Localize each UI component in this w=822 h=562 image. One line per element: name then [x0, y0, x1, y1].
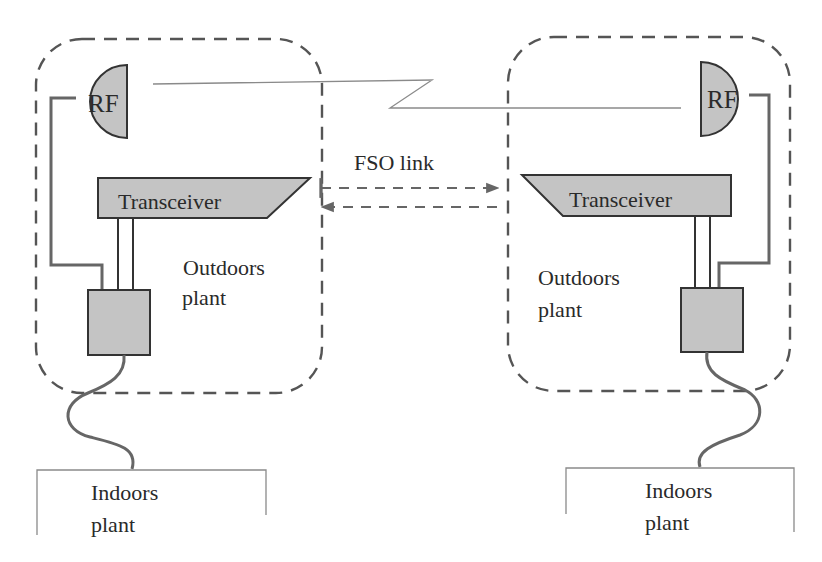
- right-transceiver: Transceiver: [522, 175, 731, 216]
- right-site: RF Transceiver Outdoors plant Indoors pl…: [508, 37, 794, 535]
- left-indoors-label-line1: Indoors: [91, 480, 158, 505]
- left-indoors-label-line2: plant: [91, 512, 135, 537]
- right-indoor-cable: [699, 352, 760, 467]
- left-rf-label: RF: [88, 90, 119, 117]
- left-outdoors-label-line2: plant: [182, 285, 226, 310]
- right-indoors-label-line1: Indoors: [645, 478, 712, 503]
- left-indoor-cable: [68, 355, 133, 469]
- left-transceiver: Transceiver: [98, 178, 310, 218]
- left-outdoors-label-line1: Outdoors: [183, 255, 265, 280]
- left-power-unit: [88, 290, 150, 355]
- diagram-canvas: RF Transceiver Outdoors plant Indoors pl…: [0, 0, 822, 562]
- fso-link-label: FSO link: [354, 150, 434, 175]
- fso-link-arrows: [321, 188, 498, 207]
- rf-link-line: [153, 80, 681, 108]
- right-power-unit: [681, 288, 743, 352]
- left-transceiver-label: Transceiver: [118, 189, 222, 214]
- left-site: RF Transceiver Outdoors plant Indoors pl…: [36, 39, 322, 537]
- left-rf-cable: [51, 98, 102, 290]
- left-rf-antenna: RF: [88, 65, 127, 138]
- right-rf-antenna: RF: [701, 62, 738, 136]
- right-outdoors-label-line2: plant: [538, 297, 582, 322]
- right-transceiver-label: Transceiver: [569, 187, 673, 212]
- right-rf-label: RF: [707, 86, 738, 113]
- right-indoors-label-line2: plant: [645, 510, 689, 535]
- right-outdoors-label-line1: Outdoors: [538, 265, 620, 290]
